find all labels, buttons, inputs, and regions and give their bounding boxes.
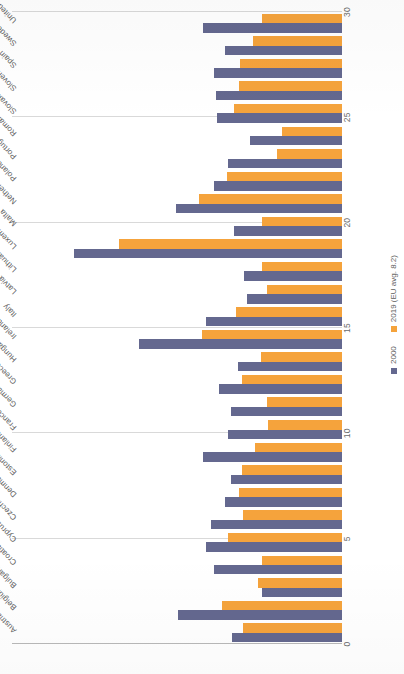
bar — [217, 113, 342, 122]
legend-label: 2000 — [389, 346, 398, 364]
bar — [214, 565, 342, 574]
value-tick-label: 5 — [342, 536, 352, 541]
bar — [202, 330, 342, 339]
bar-group — [12, 305, 342, 328]
bar-group — [12, 486, 342, 509]
bar — [267, 397, 342, 406]
bar — [277, 149, 342, 158]
bar — [239, 81, 342, 90]
legend-item[interactable]: 2000 — [389, 346, 398, 374]
bar-group — [12, 80, 342, 103]
bar — [227, 172, 343, 181]
bar-group — [12, 554, 342, 577]
bar — [247, 294, 342, 303]
legend-label: 2019 (EU avg. 8.2) — [389, 255, 398, 322]
bar-group — [12, 125, 342, 148]
bar — [253, 36, 342, 45]
bar — [243, 510, 342, 519]
bar — [234, 104, 342, 113]
bar — [231, 475, 342, 484]
bar — [139, 339, 343, 348]
bar — [262, 14, 342, 23]
bar — [242, 465, 342, 474]
legend-swatch-icon — [391, 326, 397, 332]
bar-group — [12, 396, 342, 419]
bar — [262, 556, 342, 565]
bar — [268, 420, 342, 429]
bar-group — [12, 418, 342, 441]
bar — [214, 181, 342, 190]
bar — [236, 307, 342, 316]
bar — [262, 217, 342, 226]
bar — [119, 239, 342, 248]
bar-group — [12, 215, 342, 238]
legend-swatch-icon — [391, 368, 397, 374]
bar — [178, 610, 342, 619]
bar — [216, 91, 343, 100]
bar-group — [12, 441, 342, 464]
bar — [243, 623, 342, 632]
bar-group — [12, 463, 342, 486]
bar — [250, 136, 342, 145]
legend-item[interactable]: 2019 (EU avg. 8.2) — [389, 255, 398, 332]
bar — [176, 204, 342, 213]
bar-group — [12, 283, 342, 306]
bar — [228, 159, 342, 168]
bar — [222, 601, 342, 610]
bar — [225, 497, 342, 506]
bar-group — [12, 621, 342, 644]
bar — [228, 533, 342, 542]
bar — [258, 578, 342, 587]
bar — [74, 249, 342, 258]
bar — [206, 542, 342, 551]
bar-group — [12, 373, 342, 396]
bar — [206, 317, 342, 326]
bar-group — [12, 238, 342, 261]
value-tick-label: 0 — [342, 642, 352, 647]
chart-surface: AustriaBelgiumBulgariaCroatiaCyprusCzech… — [0, 0, 404, 674]
bar — [262, 588, 342, 597]
bar — [244, 271, 342, 280]
bar-group — [12, 260, 342, 283]
value-tick-label: 25 — [342, 112, 352, 122]
bar — [199, 194, 342, 203]
bar-group — [12, 57, 342, 80]
plot-area — [12, 12, 342, 644]
bar — [232, 633, 342, 642]
chart-legend: 20002019 (EU avg. 8.2) — [389, 255, 398, 374]
bar — [242, 375, 342, 384]
bar — [255, 443, 342, 452]
bar — [225, 46, 342, 55]
bar-group — [12, 147, 342, 170]
bar — [267, 285, 342, 294]
bar — [228, 430, 342, 439]
bar — [238, 362, 343, 371]
bar-group — [12, 102, 342, 125]
bar-group — [12, 599, 342, 622]
value-tick-label: 20 — [342, 218, 352, 228]
bar — [231, 407, 342, 416]
bar-group — [12, 34, 342, 57]
bar — [239, 488, 342, 497]
bar — [203, 23, 342, 32]
bar-group — [12, 576, 342, 599]
bar-group — [12, 350, 342, 373]
value-axis: 051015202530 — [342, 12, 364, 644]
bar — [240, 59, 342, 68]
bar-group — [12, 12, 342, 35]
chart-figure: AustriaBelgiumBulgariaCroatiaCyprusCzech… — [0, 0, 404, 674]
bar-group — [12, 531, 342, 554]
bar — [261, 352, 342, 361]
bar — [214, 68, 342, 77]
bar-group — [12, 170, 342, 193]
bar — [219, 384, 342, 393]
bar — [234, 226, 342, 235]
value-tick-label: 15 — [342, 323, 352, 333]
bar — [203, 452, 342, 461]
bar-group — [12, 192, 342, 215]
value-tick-label: 10 — [342, 428, 352, 438]
bar — [282, 127, 343, 136]
bar — [211, 520, 342, 529]
bars-layer — [12, 12, 342, 644]
value-tick-label: 30 — [342, 7, 352, 17]
